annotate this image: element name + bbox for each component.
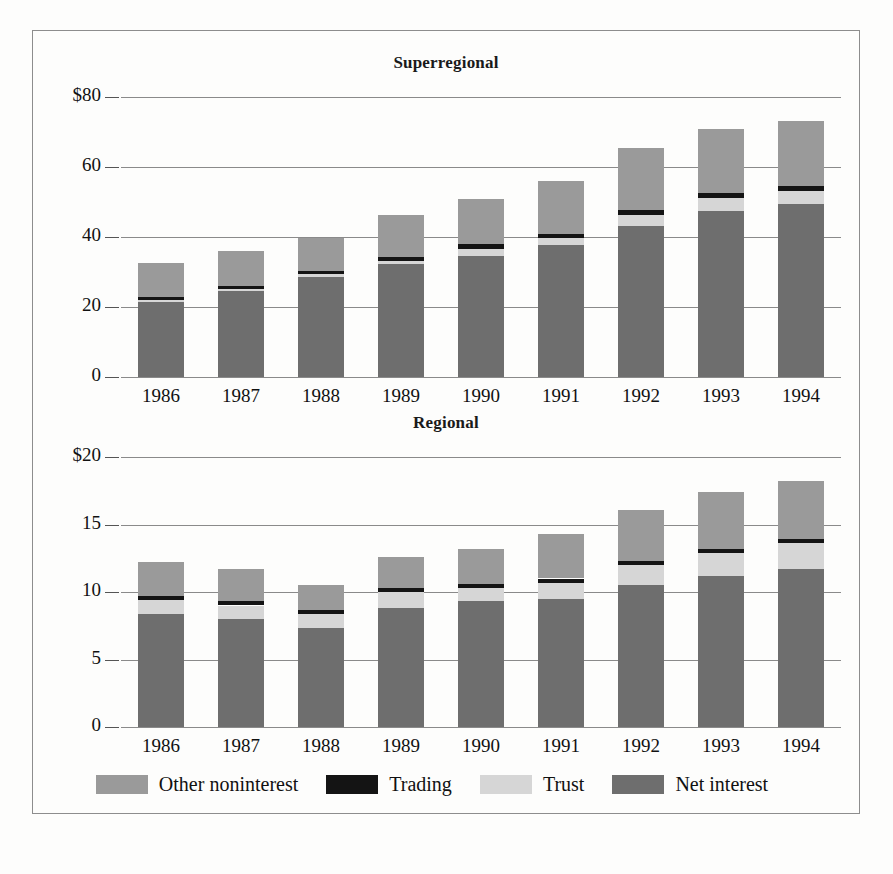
bar-segment-other-noninterest [538, 181, 584, 234]
y-tick-mark [105, 167, 119, 168]
bar-segment-net-interest [538, 599, 584, 727]
x-axis-label-1987: 1987 [201, 735, 281, 757]
bar-segment-trust [218, 606, 264, 620]
y-tick-mark [105, 727, 119, 728]
bar-segment-trading [778, 186, 824, 191]
bar-1988 [298, 457, 344, 727]
y-tick-mark [105, 592, 119, 593]
bar-segment-trust [778, 191, 824, 205]
y-tick-mark [105, 377, 119, 378]
x-axis-label-1991: 1991 [521, 735, 601, 757]
x-axis-label-1988: 1988 [281, 735, 361, 757]
bar-segment-other-noninterest [218, 569, 264, 601]
bar-segment-other-noninterest [538, 534, 584, 579]
x-axis-baseline [121, 377, 841, 378]
legend-label: Net interest [675, 773, 768, 796]
bar-segment-other-noninterest [378, 557, 424, 588]
bar-segment-trading [538, 234, 584, 239]
bar-segment-other-noninterest [298, 238, 344, 271]
bar-segment-trading [458, 244, 504, 248]
bar-1993 [698, 457, 744, 727]
bar-segment-other-noninterest [458, 549, 504, 584]
bar-1988 [298, 97, 344, 377]
y-axis-tick-label: $20 [25, 444, 101, 466]
bar-segment-trading [538, 579, 584, 583]
bar-segment-trading [298, 271, 344, 275]
bar-segment-net-interest [378, 264, 424, 377]
legend-swatch-trust [480, 775, 532, 794]
bar-segment-trust [298, 614, 344, 629]
y-tick-mark [105, 237, 119, 238]
bar-segment-other-noninterest [618, 510, 664, 561]
bar-segment-net-interest [218, 291, 264, 377]
y-axis-tick-label: $80 [25, 84, 101, 106]
bar-segment-net-interest [458, 256, 504, 377]
bar-segment-trading [778, 539, 824, 543]
legend-label: Other noninterest [159, 773, 298, 796]
chart-frame-border: Superregional 0204060$801986198719881989… [32, 30, 860, 814]
bar-segment-net-interest [298, 277, 344, 377]
y-axis-tick-label: 20 [25, 294, 101, 316]
bar-segment-other-noninterest [778, 481, 824, 539]
bar-segment-other-noninterest [298, 585, 344, 609]
legend-swatch-trading [326, 775, 378, 794]
bar-segment-net-interest [378, 608, 424, 727]
bar-segment-other-noninterest [458, 199, 504, 245]
legend-label: Trust [543, 773, 585, 796]
superregional-panel: Superregional 0204060$801986198719881989… [33, 31, 859, 399]
x-axis-label-1992: 1992 [601, 735, 681, 757]
bar-segment-net-interest [298, 628, 344, 727]
bar-segment-other-noninterest [378, 215, 424, 257]
bar-segment-net-interest [138, 614, 184, 727]
bar-segment-net-interest [618, 585, 664, 727]
bar-segment-net-interest [538, 245, 584, 377]
chart-legend: Other noninterestTradingTrustNet interes… [33, 767, 859, 801]
bar-segment-trust [378, 261, 424, 264]
regional-title: Regional [33, 413, 859, 433]
legend-item-trust[interactable]: Trust [480, 773, 613, 796]
bar-segment-trust [618, 215, 664, 226]
bar-segment-other-noninterest [138, 562, 184, 596]
bar-segment-trading [218, 601, 264, 605]
bar-segment-net-interest [138, 302, 184, 377]
bar-segment-other-noninterest [618, 148, 664, 210]
legend-item-net-interest[interactable]: Net interest [612, 773, 796, 796]
bar-1994 [778, 457, 824, 727]
bar-segment-trust [298, 274, 344, 276]
bar-segment-trading [138, 596, 184, 600]
y-tick-mark [105, 525, 119, 526]
bar-segment-trust [378, 592, 424, 608]
bar-segment-trading [138, 297, 184, 300]
bar-1986 [138, 97, 184, 377]
x-axis-label-1990: 1990 [441, 735, 521, 757]
bar-segment-net-interest [778, 569, 824, 727]
bar-segment-net-interest [778, 204, 824, 377]
bar-1990 [458, 457, 504, 727]
y-axis-tick-label: 5 [25, 647, 101, 669]
bar-segment-trust [698, 198, 744, 211]
bar-segment-trading [378, 588, 424, 592]
legend-label: Trading [389, 773, 452, 796]
bar-segment-other-noninterest [138, 263, 184, 297]
legend-item-trading[interactable]: Trading [326, 773, 480, 796]
y-tick-mark [105, 97, 119, 98]
bar-segment-net-interest [458, 601, 504, 727]
legend-swatch-net-interest [612, 775, 664, 794]
regional-plot-area: 051015$201986198719881989199019911992199… [121, 457, 841, 727]
superregional-plot-area: 0204060$80198619871988198919901991199219… [121, 97, 841, 377]
x-axis-label-1994: 1994 [761, 735, 841, 757]
y-axis-tick-label: 0 [25, 714, 101, 736]
bar-segment-trust [458, 249, 504, 256]
bar-segment-trust [138, 300, 184, 302]
superregional-title: Superregional [33, 53, 859, 73]
bar-segment-trust [618, 565, 664, 585]
bar-segment-net-interest [618, 226, 664, 377]
y-axis-tick-label: 60 [25, 154, 101, 176]
bar-1992 [618, 457, 664, 727]
bar-segment-trading [378, 257, 424, 261]
x-axis-label-1993: 1993 [681, 735, 761, 757]
legend-item-other-noninterest[interactable]: Other noninterest [96, 773, 326, 796]
bar-segment-trust [218, 289, 264, 291]
bar-1992 [618, 97, 664, 377]
bar-segment-trading [218, 286, 264, 290]
